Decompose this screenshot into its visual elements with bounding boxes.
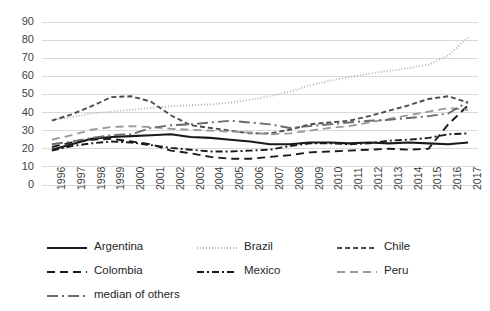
x-tick-label: 1996 (56, 167, 66, 190)
legend-item-peru[interactable]: Peru (336, 260, 408, 280)
legend-label: Brazil (244, 240, 273, 252)
x-tick-label: 2003 (195, 167, 205, 190)
x-tick-label: 2004 (214, 167, 224, 190)
x-tick-label: 1998 (96, 167, 106, 190)
legend-item-median-of-others[interactable]: median of others (46, 284, 180, 304)
legend-swatch-icon (46, 264, 88, 276)
x-tick-label: 2011 (353, 167, 363, 190)
x-tick-label: 2016 (452, 167, 462, 190)
x-tick-label: 2005 (234, 167, 244, 190)
legend-swatch-icon (46, 240, 88, 252)
y-tick-label: 80 (8, 34, 34, 45)
legend-label: Colombia (94, 264, 143, 276)
series-line-brazil (52, 37, 468, 119)
legend-swatch-icon (46, 288, 88, 300)
x-tick-label: 2014 (413, 167, 423, 190)
y-tick-label: 90 (8, 16, 34, 27)
y-tick-label: 0 (8, 179, 34, 190)
y-tick-label: 70 (8, 52, 34, 63)
legend-swatch-icon (196, 240, 238, 252)
series-line-chile (52, 96, 468, 133)
x-tick-label: 2000 (135, 167, 145, 190)
chart-legend: ArgentinaBrazilChileColombiaMexicoPerume… (46, 236, 466, 302)
x-tick-label: 2006 (254, 167, 264, 190)
y-tick-label: 50 (8, 88, 34, 99)
legend-item-colombia[interactable]: Colombia (46, 260, 143, 280)
legend-label: Argentina (94, 240, 143, 252)
x-tick-label: 1999 (115, 167, 125, 190)
legend-swatch-icon (196, 264, 238, 276)
legend-label: Peru (384, 264, 408, 276)
x-tick-label: 2008 (294, 167, 304, 190)
legend-label: Chile (384, 240, 410, 252)
legend-item-chile[interactable]: Chile (336, 236, 410, 256)
x-tick-label: 2001 (155, 167, 165, 190)
x-tick-label: 2002 (175, 167, 185, 190)
series-lines (52, 37, 468, 158)
legend-item-mexico[interactable]: Mexico (196, 260, 280, 280)
y-tick-label: 40 (8, 107, 34, 118)
line-chart: 0102030405060708090 19961997199819992000… (0, 0, 490, 311)
legend-label: Mexico (244, 264, 280, 276)
legend-item-argentina[interactable]: Argentina (46, 236, 143, 256)
x-tick-label: 2013 (393, 167, 403, 190)
x-tick-label: 2012 (373, 167, 383, 190)
x-tick-label: 2017 (472, 167, 482, 190)
legend-swatch-icon (336, 240, 378, 252)
x-tick-label: 2010 (333, 167, 343, 190)
y-tick-label: 10 (8, 161, 34, 172)
x-tick-label: 2007 (274, 167, 284, 190)
y-tick-label: 30 (8, 125, 34, 136)
series-line-colombia (52, 105, 468, 158)
y-tick-label: 20 (8, 143, 34, 154)
legend-swatch-icon (336, 264, 378, 276)
legend-label: median of others (94, 288, 180, 300)
x-tick-label: 2015 (432, 167, 442, 190)
x-tick-label: 1997 (76, 167, 86, 190)
legend-item-brazil[interactable]: Brazil (196, 236, 273, 256)
y-tick-label: 60 (8, 70, 34, 81)
x-tick-label: 2009 (314, 167, 324, 190)
